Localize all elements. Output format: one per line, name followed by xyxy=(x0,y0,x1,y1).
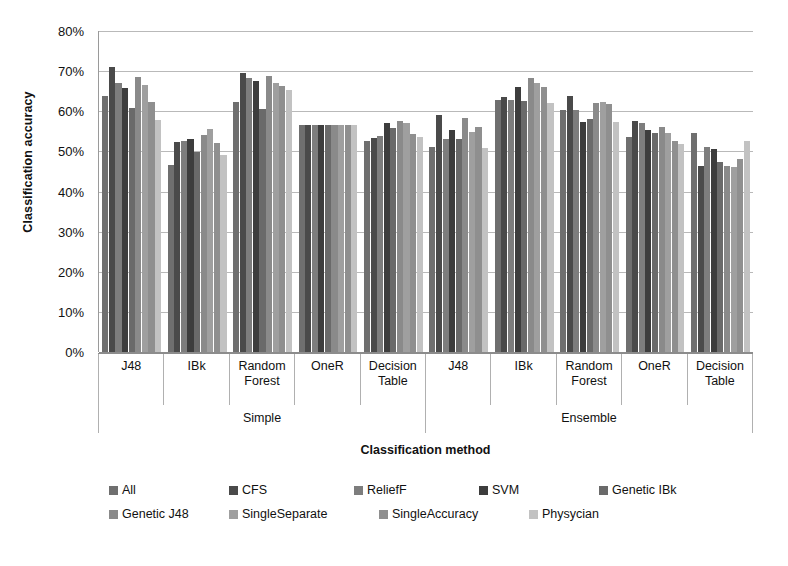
bar-group xyxy=(295,31,360,352)
bar xyxy=(495,100,501,352)
x-axis-category-line: Random xyxy=(557,359,621,374)
x-axis-category-label: OneR xyxy=(295,354,360,405)
legend-label: SingleSeparate xyxy=(242,507,327,521)
bar xyxy=(207,129,213,352)
legend-item[interactable]: All xyxy=(109,483,136,497)
bar xyxy=(312,125,318,352)
bar xyxy=(547,103,553,352)
x-axis-super-categories: SimpleEnsemble xyxy=(98,405,753,433)
bar xyxy=(724,166,730,352)
bar xyxy=(508,100,514,352)
bar xyxy=(155,120,161,352)
bar xyxy=(371,138,377,352)
legend-item[interactable]: Genetic J48 xyxy=(109,507,189,521)
bar-group xyxy=(426,31,491,352)
bar xyxy=(390,128,396,352)
bar xyxy=(632,121,638,352)
legend-label: SVM xyxy=(492,483,519,497)
bar xyxy=(214,143,220,352)
legend-row: Genetic J48SingleSeparateSingleAccuracyP… xyxy=(24,502,764,526)
x-axis-category-label: J48 xyxy=(426,354,491,405)
bar xyxy=(102,96,108,352)
bar xyxy=(233,102,239,352)
bar xyxy=(691,133,697,352)
bar xyxy=(279,86,285,352)
x-axis-title: Classification method xyxy=(98,443,753,457)
bar xyxy=(469,132,475,352)
bar xyxy=(246,78,252,352)
bar xyxy=(567,96,573,352)
bar xyxy=(318,125,324,352)
bar-group xyxy=(361,31,426,352)
bar xyxy=(573,110,579,352)
bar xyxy=(194,152,200,352)
x-axis-category-line: J48 xyxy=(99,359,163,374)
bar xyxy=(672,141,678,352)
bar xyxy=(560,110,566,352)
x-axis-category-label: DecisionTable xyxy=(361,354,426,405)
bar xyxy=(449,130,455,352)
legend-item[interactable]: CFS xyxy=(229,483,267,497)
y-axis-tick-label: 80% xyxy=(38,24,84,39)
bar xyxy=(456,139,462,352)
y-axis-tick-label: 20% xyxy=(38,264,84,279)
bar-group xyxy=(99,31,164,352)
legend-swatch-icon xyxy=(109,510,118,519)
bar xyxy=(482,148,488,352)
y-axis-tick-label: 40% xyxy=(38,184,84,199)
bar xyxy=(325,125,331,352)
bar xyxy=(129,108,135,352)
x-axis-category-line: Table xyxy=(688,374,752,389)
x-axis-category-line: Table xyxy=(361,374,425,389)
x-axis-super-category-label: Simple xyxy=(98,405,426,433)
bar xyxy=(266,76,272,352)
legend-item[interactable]: Physycian xyxy=(529,507,599,521)
legend-item[interactable]: SVM xyxy=(479,483,519,497)
bar xyxy=(443,139,449,352)
legend-item[interactable]: SingleSeparate xyxy=(229,507,327,521)
x-axis-category-line: OneR xyxy=(295,359,359,374)
bar xyxy=(613,122,619,352)
bar xyxy=(135,77,141,352)
legend-swatch-icon xyxy=(479,486,488,495)
bar xyxy=(397,121,403,352)
x-axis-category-label: IBk xyxy=(491,354,556,405)
bar-chart: Classification accuracy 0%10%20%30%40%50… xyxy=(0,0,788,566)
bar xyxy=(148,102,154,352)
bar xyxy=(115,83,121,352)
legend-swatch-icon xyxy=(529,510,538,519)
x-axis-category-labels: J48IBkRandomForestOneRDecisionTableJ48IB… xyxy=(98,353,753,405)
x-axis-category-line: OneR xyxy=(622,359,686,374)
bar xyxy=(417,137,423,352)
x-axis-category-label: OneR xyxy=(622,354,687,405)
bar xyxy=(351,125,357,352)
bar xyxy=(626,137,632,352)
x-axis-category-line: Forest xyxy=(230,374,294,389)
bar xyxy=(639,123,645,353)
legend-label: ReliefF xyxy=(367,483,407,497)
legend-swatch-icon xyxy=(109,486,118,495)
x-axis-category-line: Decision xyxy=(688,359,752,374)
x-axis-category-label: RandomForest xyxy=(557,354,622,405)
bar xyxy=(168,165,174,352)
x-axis-category-line: Decision xyxy=(361,359,425,374)
bar xyxy=(174,142,180,352)
bar xyxy=(711,149,717,352)
legend-item[interactable]: Genetic IBk xyxy=(599,483,677,497)
plot-area xyxy=(98,31,753,352)
bar xyxy=(665,133,671,352)
legend-swatch-icon xyxy=(379,510,388,519)
bar xyxy=(659,127,665,353)
bar xyxy=(580,122,586,352)
bar xyxy=(645,130,651,352)
bar xyxy=(731,167,737,352)
x-axis-category-line: Forest xyxy=(557,374,621,389)
y-axis-tick-label: 10% xyxy=(38,304,84,319)
chart-legend: AllCFSReliefFSVMGenetic IBkGenetic J48Si… xyxy=(24,478,764,526)
bar xyxy=(187,139,193,352)
bar xyxy=(122,88,128,352)
bar xyxy=(201,135,207,352)
legend-label: CFS xyxy=(242,483,267,497)
legend-item[interactable]: ReliefF xyxy=(354,483,407,497)
legend-item[interactable]: SingleAccuracy xyxy=(379,507,478,521)
